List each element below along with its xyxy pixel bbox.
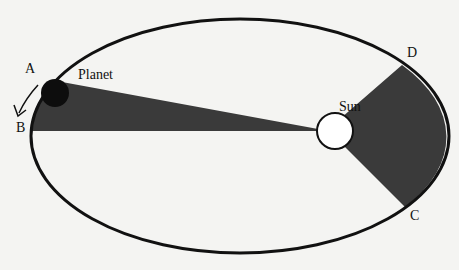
label-b: B <box>16 121 25 135</box>
diagram-canvas <box>0 0 459 270</box>
label-c: C <box>410 209 419 223</box>
label-d: D <box>407 46 417 60</box>
planet-icon <box>41 79 69 107</box>
sun-icon <box>317 113 353 149</box>
shaded-sector-ab <box>32 82 318 131</box>
label-planet: Planet <box>78 68 113 82</box>
label-sun: Sun <box>339 100 361 114</box>
label-a: A <box>25 62 35 76</box>
kepler-diagram: A B Planet Sun D C <box>0 0 459 270</box>
